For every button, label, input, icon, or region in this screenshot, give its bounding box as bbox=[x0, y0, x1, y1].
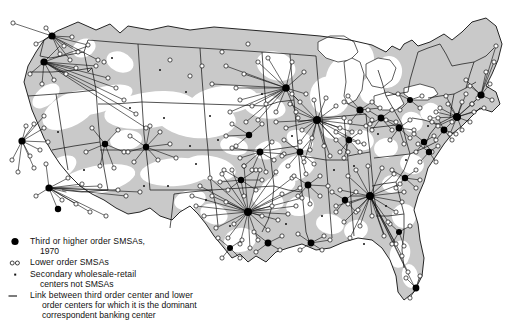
legend-label-secondary-line2: centers not SMSAs bbox=[30, 279, 270, 289]
legend-label-link-line2: order centers for which it is the domina… bbox=[30, 300, 270, 310]
legend-label-third-order-line2: 1970 bbox=[30, 246, 270, 256]
line-dash-icon bbox=[8, 290, 28, 301]
legend-label-lower-order: Lower order SMSAs bbox=[30, 257, 270, 267]
small-dot-icon bbox=[8, 269, 28, 280]
legend-item-lower-order: Lower order SMSAs bbox=[8, 257, 270, 267]
map-figure: Third or higher order SMSAs, 1970 Lower … bbox=[0, 0, 520, 327]
legend-label-third-order-line1: Third or higher order SMSAs, bbox=[30, 236, 270, 246]
legend-item-link: Link between third order center and lowe… bbox=[8, 290, 270, 321]
map-legend: Third or higher order SMSAs, 1970 Lower … bbox=[8, 236, 270, 322]
double-open-circle-icon bbox=[8, 257, 28, 268]
legend-label-secondary-line1: Secondary wholesale-retail bbox=[30, 269, 270, 279]
legend-label-link-line3: correspondent banking center bbox=[30, 310, 270, 320]
legend-label-link-line1: Link between third order center and lowe… bbox=[30, 290, 270, 300]
legend-item-secondary-center: Secondary wholesale-retail centers not S… bbox=[8, 269, 270, 289]
filled-large-circle-icon bbox=[8, 236, 28, 247]
legend-item-third-order: Third or higher order SMSAs, 1970 bbox=[8, 236, 270, 256]
